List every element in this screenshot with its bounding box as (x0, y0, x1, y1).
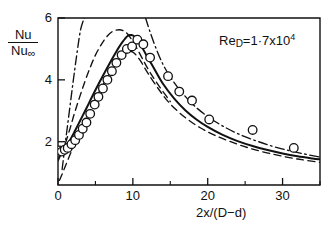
data-point (175, 87, 184, 96)
plot-area (0, 0, 336, 230)
data-point (248, 126, 257, 135)
data-point (139, 40, 148, 49)
curve-dashed (59, 51, 320, 180)
data-point (164, 72, 173, 81)
data-point (290, 144, 299, 153)
figure-container: Nu Nu∞ 2x/(D−d) ReD=1·7x104 0102030246 (0, 0, 336, 230)
data-point (86, 110, 95, 119)
data-point (103, 76, 112, 85)
data-point (205, 115, 214, 124)
data-point (146, 53, 155, 62)
data-point (188, 96, 197, 105)
curve-dashdot (146, 18, 320, 157)
data-point (99, 84, 108, 93)
data-point (112, 59, 121, 68)
data-point (94, 93, 103, 102)
data-point (82, 118, 91, 127)
data-point (108, 67, 117, 76)
